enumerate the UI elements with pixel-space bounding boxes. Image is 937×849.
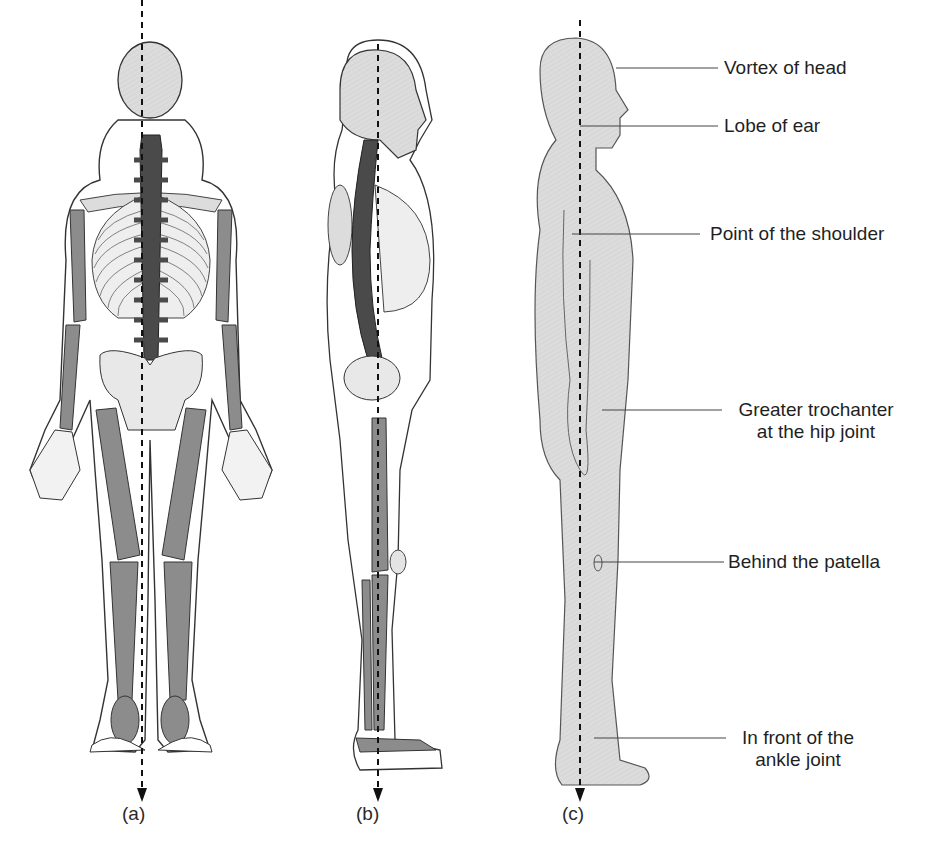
label-vortex-of-head: Vortex of head <box>724 57 847 79</box>
panel-b-skeleton-lateral <box>327 40 442 802</box>
panel-label-c: (c) <box>562 803 584 825</box>
label-greater-trochanter-line1: Greater trochanter <box>726 399 906 421</box>
panel-label-b: (b) <box>356 803 379 825</box>
label-lobe-of-ear: Lobe of ear <box>724 115 820 137</box>
label-ankle-line1: In front of the <box>728 727 868 749</box>
label-behind-patella: Behind the patella <box>728 551 880 573</box>
panel-label-a: (a) <box>122 803 145 825</box>
label-point-of-shoulder: Point of the shoulder <box>710 223 884 245</box>
panel-a-skeleton-posterior <box>30 0 272 802</box>
label-greater-trochanter: Greater trochanter at the hip joint <box>726 399 906 443</box>
panel-c-body-outline <box>535 20 726 802</box>
label-greater-trochanter-line2: at the hip joint <box>726 421 906 443</box>
label-ankle-line2: ankle joint <box>728 749 868 771</box>
label-ankle-joint: In front of the ankle joint <box>728 727 868 771</box>
